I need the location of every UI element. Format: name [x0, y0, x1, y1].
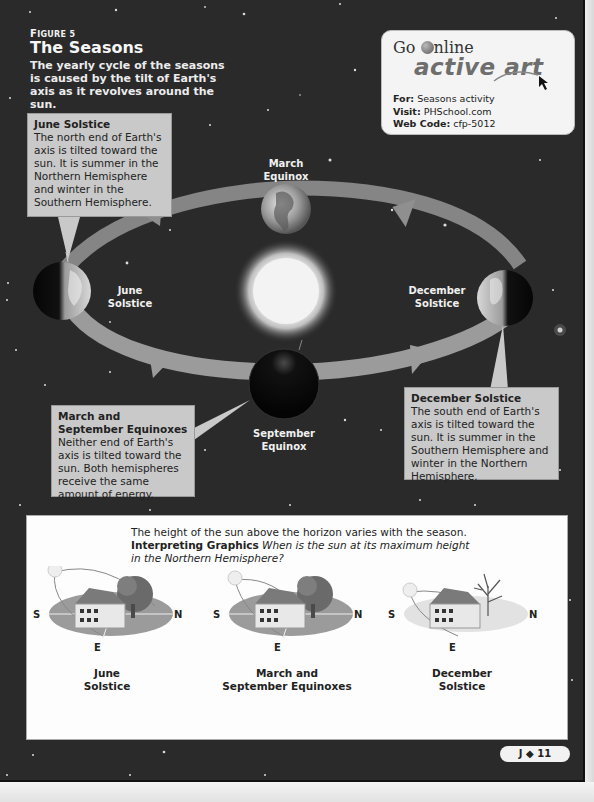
label-december-solstice: December Solstice — [402, 284, 472, 310]
figure-caption: The yearly cycle of the seasons is cause… — [30, 59, 230, 111]
textbook-page: FIGURE 5 The Seasons The yearly cycle of… — [0, 0, 585, 782]
figure-title: The Seasons — [30, 38, 143, 57]
direction-north: N — [174, 609, 182, 620]
direction-north: N — [354, 609, 362, 620]
scene-label: March and September Equinoxes — [197, 667, 377, 693]
scene-december-solstice: S N E December Solstice — [382, 566, 562, 736]
page-section: J — [519, 748, 523, 759]
diamond-icon: ◆ — [526, 748, 534, 759]
direction-south: S — [388, 609, 395, 620]
page-number-badge: J ◆ 11 — [500, 746, 570, 762]
callout-body: Neither end of Earth's axis is tilted to… — [58, 436, 182, 500]
scene-label-line: September Equinoxes — [197, 680, 377, 693]
scene-label: December Solstice — [372, 667, 552, 693]
label-line: Equinox — [250, 170, 322, 183]
earth-september-equinox — [249, 340, 319, 419]
callout-equinoxes: March and September Equinoxes Neither en… — [51, 405, 195, 497]
label-line: Solstice — [100, 297, 160, 310]
visit-link[interactable]: PHSchool.com — [424, 106, 492, 117]
label-line: December — [402, 284, 472, 297]
direction-north: N — [529, 609, 537, 620]
label-line: Equinox — [246, 440, 322, 453]
earth-december-solstice — [477, 270, 533, 326]
direction-east: E — [274, 642, 281, 653]
label-line: Solstice — [402, 297, 472, 310]
scene-june-solstice: S N E June Solstice — [27, 566, 207, 736]
callout-pointer-equinox — [194, 400, 250, 440]
label-line: September — [246, 427, 322, 440]
callout-body: The north end of Earth's axis is tilted … — [34, 131, 161, 208]
for-value: Seasons activity — [417, 93, 494, 104]
scene-label-line: March and — [197, 667, 377, 680]
page-edge-bottom — [0, 782, 594, 802]
callout-title: June Solstice — [34, 118, 165, 131]
direction-south: S — [213, 609, 220, 620]
callout-june-solstice: June Solstice The north end of Earth's a… — [27, 113, 172, 217]
callout-december-solstice: December Solstice The south end of Earth… — [404, 387, 559, 480]
panel-intro-text: The height of the sun above the horizon … — [131, 526, 467, 538]
go-online-active-art-box[interactable]: Go nline active art For: Seasons activit… — [381, 30, 575, 135]
swoosh-icon — [492, 65, 542, 85]
direction-east: E — [94, 642, 101, 653]
scene-equinoxes: S N E March and September Equinoxes — [207, 566, 387, 736]
label-line: June — [100, 284, 160, 297]
earth-march-equinox — [261, 184, 311, 234]
label-march-equinox: March Equinox — [250, 157, 322, 183]
web-code-value: cfp-5012 — [453, 118, 495, 129]
scene-label-line: June — [17, 667, 197, 680]
mouse-cursor-icon — [538, 75, 552, 91]
panel-intro: The height of the sun above the horizon … — [131, 526, 471, 565]
callout-title: December Solstice — [411, 392, 552, 405]
label-june-solstice: June Solstice — [100, 284, 160, 310]
page-edge-right — [585, 0, 594, 802]
question-label: Interpreting Graphics — [131, 539, 259, 551]
go-online-info: For: Seasons activity Visit: PHSchool.co… — [393, 93, 495, 131]
page-number: 11 — [537, 748, 551, 759]
scene-label-line: December — [372, 667, 552, 680]
callout-title: March and September Equinoxes — [58, 410, 188, 436]
web-code-label: Web Code: — [393, 118, 450, 129]
scene-label-line: Solstice — [17, 680, 197, 693]
earth-june-solstice — [33, 252, 91, 320]
label-september-equinox: September Equinox — [246, 427, 322, 453]
for-label: For: — [393, 93, 414, 104]
globe-icon — [421, 41, 434, 54]
callout-body: The south end of Earth's axis is tilted … — [411, 405, 549, 482]
scene-label: June Solstice — [17, 667, 197, 693]
sun-height-panel: The height of the sun above the horizon … — [26, 515, 568, 740]
scene-label-line: Solstice — [372, 680, 552, 693]
label-line: March — [250, 157, 322, 170]
visit-label: Visit: — [393, 106, 421, 117]
direction-east: E — [449, 642, 456, 653]
direction-south: S — [33, 609, 40, 620]
